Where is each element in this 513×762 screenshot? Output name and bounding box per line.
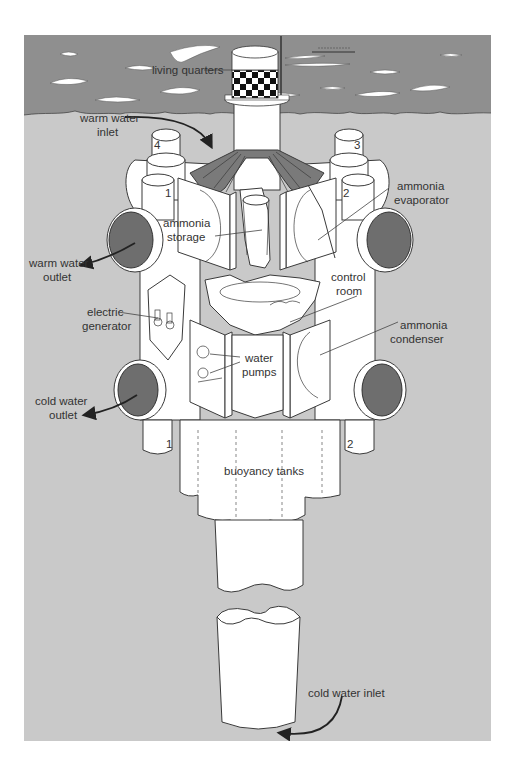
- label-cold-water-inlet: cold water inlet: [308, 687, 386, 699]
- label-warm-water-inlet-2: inlet: [97, 126, 119, 138]
- module-number-1-bottom: 1: [166, 438, 172, 450]
- label-control-room-1: control: [331, 271, 366, 283]
- label-ammonia-storage-2: storage: [167, 231, 205, 243]
- module-number-4: 4: [154, 139, 161, 151]
- module-number-2-top: 2: [343, 187, 349, 199]
- module-number-3: 3: [354, 139, 360, 151]
- otec-plant-diagram: living quarters warm water inlet 4 3 1 2…: [0, 0, 513, 762]
- ammonia-condenser-module: [283, 320, 330, 418]
- label-ammonia-evaporator-1: ammonia: [397, 180, 445, 192]
- label-ammonia-condenser-1: ammonia: [400, 319, 448, 331]
- water-pumps-module: [190, 320, 232, 418]
- label-ammonia-condenser-2: condenser: [390, 333, 444, 345]
- label-water-pumps-2: pumps: [242, 366, 277, 378]
- label-control-room-2: room: [336, 285, 362, 297]
- module-number-1-top: 1: [165, 187, 171, 199]
- label-cold-water-outlet-1: cold water: [35, 395, 88, 407]
- cold-water-pipe-lower: [217, 606, 300, 729]
- label-water-pumps-1: water: [244, 352, 273, 364]
- label-warm-water-outlet-1: warm water: [28, 257, 89, 269]
- label-living-quarters: living quarters: [152, 64, 224, 76]
- label-cold-water-outlet-2: outlet: [49, 409, 78, 421]
- label-electric-generator-1: electric: [87, 306, 124, 318]
- cold-water-pipe-upper: [215, 520, 303, 592]
- label-warm-water-inlet-1: warm water: [79, 112, 140, 124]
- module-number-2-bottom: 2: [347, 438, 353, 450]
- label-buoyancy-tanks: buoyancy tanks: [224, 465, 304, 477]
- label-ammonia-storage-1: ammonia: [163, 217, 211, 229]
- label-ammonia-evaporator-2: evaporator: [394, 194, 449, 206]
- label-warm-water-outlet-2: outlet: [43, 271, 72, 283]
- central-column: [234, 100, 280, 190]
- label-electric-generator-2: generator: [82, 320, 131, 332]
